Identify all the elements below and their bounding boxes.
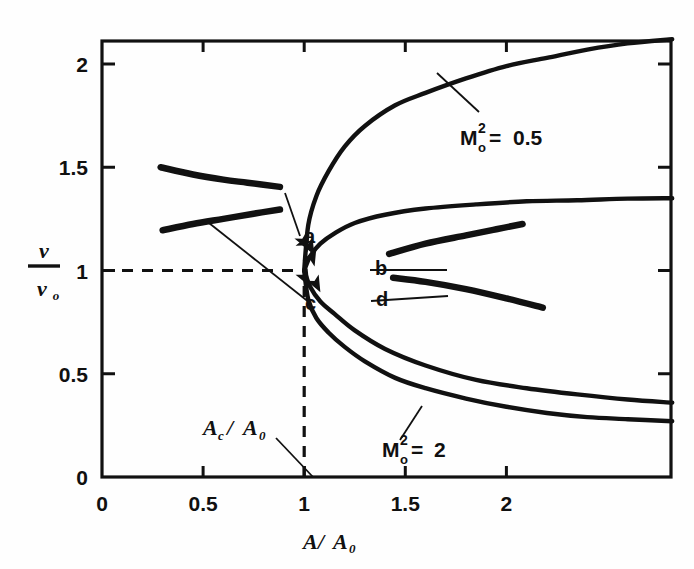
curve-2 [304, 198, 672, 270]
x-axis-denominator: A [331, 529, 348, 554]
m-value-upper: 0.5 [513, 126, 543, 149]
m-equals-lower: = [411, 438, 423, 461]
m-exponent-lower: 2 [400, 432, 408, 448]
point-label-a: a [304, 225, 316, 247]
scientific-plot: 00.511.5200.511.52 v v o A / A 0 M 2 o =… [0, 0, 694, 569]
reference-lines [102, 271, 304, 478]
m-subscript-lower: o [400, 452, 408, 467]
x-tick-label-3: 1.5 [391, 492, 421, 515]
ac-numerator-subscript: c [218, 428, 224, 443]
m-symbol-upper: M [460, 126, 478, 149]
x-tick-label-4: 2 [501, 492, 513, 515]
curve-4 [161, 167, 280, 187]
y-tick-label-0: 0 [76, 466, 88, 489]
ac-slash: / [225, 415, 235, 440]
x-axis-title: A / A 0 [301, 529, 356, 556]
x-tick-label-0: 0 [96, 492, 108, 515]
annotation-ac-a0: A c / A 0 [201, 415, 266, 443]
m-equals-upper: = [489, 126, 501, 149]
y-tick-label-3: 1.5 [59, 156, 89, 179]
y-axis-title: v v o [28, 238, 60, 303]
point-label-d: d [376, 288, 388, 310]
y-axis-denominator: v [37, 276, 47, 301]
curve-0 [304, 39, 672, 270]
x-axis-denominator-subscript: 0 [349, 541, 356, 556]
leader-c [209, 223, 310, 303]
m-symbol-lower: M [382, 438, 400, 461]
x-axis-numerator: A [301, 529, 318, 554]
leader-ac [276, 438, 313, 477]
y-axis-numerator: v [39, 238, 49, 263]
figure-root: 00.511.5200.511.52 v v o A / A 0 M 2 o =… [0, 0, 694, 569]
m-value-lower: 2 [434, 438, 446, 461]
x-axis-slash: / [316, 529, 326, 554]
ac-denominator-subscript: 0 [259, 428, 266, 443]
m-exponent-upper: 2 [478, 120, 486, 136]
curve-5 [163, 210, 280, 231]
curve-3 [304, 271, 672, 403]
x-tick-label-2: 1 [298, 492, 310, 515]
y-tick-label-2: 1 [76, 260, 88, 283]
y-tick-label-1: 0.5 [59, 363, 89, 386]
point-label-b: b [375, 257, 387, 279]
x-tick-label-1: 0.5 [188, 492, 218, 515]
m-subscript-upper: o [478, 140, 486, 155]
curve-6 [389, 224, 522, 254]
annotation-m0-2: M 2 o = 2 [382, 432, 446, 467]
curve-7 [393, 278, 543, 308]
ac-numerator: A [201, 415, 218, 440]
y-tick-label-4: 2 [76, 53, 88, 76]
curve-layer [161, 39, 673, 421]
point-label-c: c [305, 292, 316, 314]
leader-a [285, 193, 300, 236]
y-axis-denominator-subscript: o [53, 288, 60, 303]
annotation-m0-0p5: M 2 o = 0.5 [460, 120, 543, 155]
ac-denominator: A [241, 415, 258, 440]
